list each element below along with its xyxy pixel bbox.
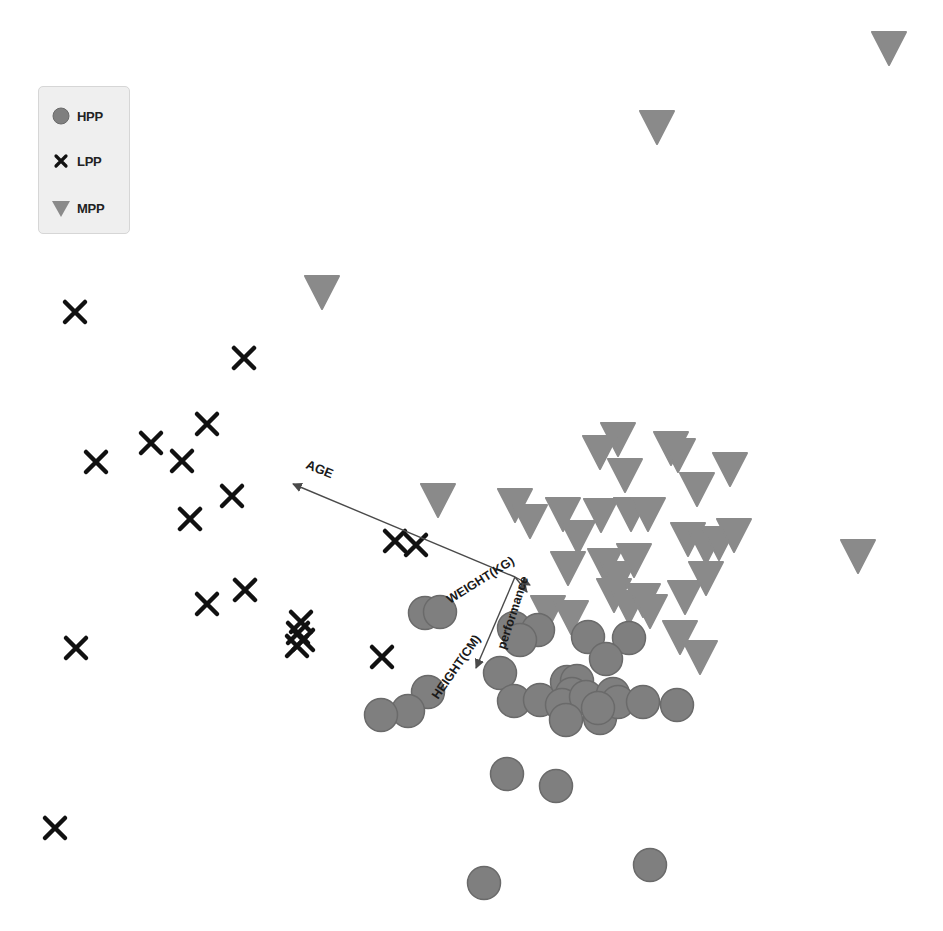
hpp-point [550, 704, 583, 737]
mpp-series [305, 32, 906, 674]
lpp-point [385, 531, 405, 551]
lpp-point [197, 594, 217, 614]
hpp-point [590, 643, 623, 676]
hpp-point [540, 770, 573, 803]
mpp-point [608, 459, 642, 492]
lpp-point [45, 818, 65, 838]
mpp-point [633, 595, 667, 628]
mpp-point [668, 581, 702, 614]
lpp-point [172, 451, 192, 471]
mpp-point [305, 276, 339, 309]
legend-label: LPP [77, 154, 101, 169]
hpp-point [634, 849, 667, 882]
lpp-point [180, 509, 200, 529]
hpp-series [365, 596, 694, 900]
hpp-point [491, 758, 524, 791]
mpp-point [872, 32, 906, 65]
loading-label: HEIGHT(CM) [429, 632, 483, 701]
lpp-point [86, 452, 106, 472]
loading-label: AGE [304, 457, 336, 482]
mpp-point [640, 111, 674, 144]
mpp-point [683, 641, 717, 674]
lpp-point [235, 580, 255, 600]
legend: HPP LPP MPP [38, 86, 130, 234]
lpp-point [197, 414, 217, 434]
hpp-point [582, 692, 615, 725]
legend-item-hpp[interactable]: HPP [51, 105, 103, 127]
lpp-point [222, 486, 242, 506]
mpp-point [421, 484, 455, 517]
legend-item-lpp[interactable]: LPP [51, 150, 101, 172]
hpp-point [365, 699, 398, 732]
mpp-point [713, 453, 747, 486]
legend-label: HPP [77, 109, 103, 124]
mpp-point [841, 540, 875, 573]
mpp-point [680, 473, 714, 506]
loading-arrow-age [293, 484, 515, 577]
legend-item-mpp[interactable]: MPP [51, 197, 104, 219]
lpp-point [65, 302, 85, 322]
lpp-point [66, 638, 86, 658]
biplot-canvas: AGEWEIGHT(KG)performanceHEIGHT(CM) [0, 0, 943, 931]
lpp-point [372, 647, 392, 667]
circle-marker-icon [51, 106, 71, 126]
mpp-point [513, 505, 547, 538]
lpp-point [234, 348, 254, 368]
x-marker-icon [51, 151, 71, 171]
lpp-point [287, 636, 307, 656]
lpp-series [45, 302, 426, 838]
triangle-down-marker-icon [51, 198, 71, 218]
mpp-point [551, 552, 585, 585]
hpp-point [468, 867, 501, 900]
hpp-point [661, 689, 694, 722]
lpp-point [141, 433, 161, 453]
legend-label: MPP [77, 201, 104, 216]
hpp-point [627, 686, 660, 719]
